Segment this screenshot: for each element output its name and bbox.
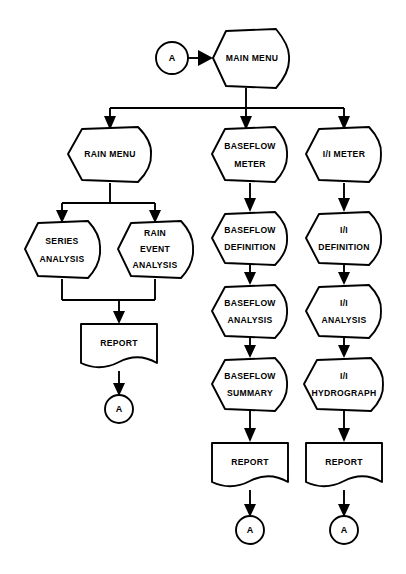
node-report-right[interactable]: REPORT	[306, 443, 382, 486]
baseflow-definition-label-line2: DEFINITION	[224, 242, 276, 252]
main-menu-label: MAIN MENU	[226, 53, 278, 63]
node-baseflow-definition[interactable]: BASEFLOW DEFINITION	[212, 212, 287, 265]
connector-a-mid-label: A	[247, 525, 254, 535]
node-ii-hydrograph[interactable]: I/I HYDROGRAPH	[304, 358, 383, 411]
node-connector-a-left[interactable]: A	[105, 395, 133, 423]
ii-hydrograph-label-line1: I/I	[340, 371, 348, 381]
node-baseflow-meter[interactable]: BASEFLOW METER	[212, 127, 287, 182]
series-analysis-label-line2: ANALYSIS	[39, 254, 84, 264]
node-connector-a-mid[interactable]: A	[236, 516, 264, 544]
node-main-menu[interactable]: MAIN MENU	[213, 29, 289, 88]
node-report-left[interactable]: REPORT	[81, 324, 157, 367]
baseflow-analysis-label-line2: ANALYSIS	[227, 315, 272, 325]
ii-analysis-label-line1: I/I	[340, 298, 348, 308]
baseflow-meter-label-line1: BASEFLOW	[224, 141, 276, 151]
node-connector-a-right[interactable]: A	[330, 516, 358, 544]
ii-analysis-label-line2: ANALYSIS	[321, 315, 366, 325]
edge-report-right-to-conn-a	[338, 490, 350, 517]
baseflow-summary-label-line2: SUMMARY	[227, 388, 273, 398]
baseflow-summary-label-line1: BASEFLOW	[224, 371, 276, 381]
node-ii-analysis[interactable]: I/I ANALYSIS	[306, 285, 381, 338]
rain-menu-label: RAIN MENU	[84, 149, 135, 159]
node-ii-meter[interactable]: I/I METER	[306, 127, 381, 182]
edge-report-left-to-conn-a	[113, 371, 125, 396]
edge-ii-analysis-to-hydrograph	[338, 338, 350, 358]
flowchart-canvas: A MAIN MENU RAIN MENU BASEFLOW METER I/I…	[0, 0, 406, 574]
connector-a-right-label: A	[341, 525, 348, 535]
rain-event-analysis-label-line1: RAIN	[144, 228, 166, 238]
rain-event-analysis-label-line3: ANALYSIS	[132, 260, 177, 270]
edge-rain-menu-bus	[56, 183, 161, 223]
edge-baseflow-summary-to-report	[244, 411, 256, 442]
ii-definition-label-line2: DEFINITION	[318, 242, 370, 252]
rain-event-analysis-label-line2: EVENT	[140, 244, 171, 254]
ii-hydrograph-label-line2: HYDROGRAPH	[311, 388, 376, 398]
baseflow-definition-label-line1: BASEFLOW	[224, 225, 276, 235]
edge-ii-definition-to-analysis	[338, 265, 350, 285]
connector-a-top-label: A	[169, 53, 176, 63]
ii-meter-label: I/I METER	[323, 149, 366, 159]
report-mid-label: REPORT	[231, 457, 269, 467]
edge-baseflow-meter-to-definition	[244, 183, 256, 212]
edge-main-menu-bus	[104, 88, 350, 130]
edge-baseflow-definition-to-analysis	[244, 265, 256, 285]
node-baseflow-summary[interactable]: BASEFLOW SUMMARY	[212, 358, 287, 411]
baseflow-analysis-label-line1: BASEFLOW	[224, 298, 276, 308]
edge-ii-hydrograph-to-report	[338, 411, 350, 442]
node-rain-event-analysis[interactable]: RAIN EVENT ANALYSIS	[118, 221, 193, 278]
report-left-label: REPORT	[100, 338, 138, 348]
flowchart-svg: A MAIN MENU RAIN MENU BASEFLOW METER I/I…	[0, 0, 406, 574]
baseflow-meter-label-line2: METER	[234, 159, 266, 169]
edge-ii-meter-to-definition	[338, 183, 350, 212]
node-connector-a-top[interactable]: A	[156, 42, 188, 74]
series-analysis-label-line1: SERIES	[45, 236, 78, 246]
node-series-analysis[interactable]: SERIES ANALYSIS	[25, 221, 100, 278]
node-baseflow-analysis[interactable]: BASEFLOW ANALYSIS	[212, 285, 287, 338]
node-rain-menu[interactable]: RAIN MENU	[68, 127, 151, 182]
edge-report-mid-to-conn-a	[244, 490, 256, 517]
ii-definition-label-line1: I/I	[340, 225, 348, 235]
node-ii-definition[interactable]: I/I DEFINITION	[306, 212, 381, 265]
edge-baseflow-analysis-to-summary	[244, 338, 256, 358]
node-report-mid[interactable]: REPORT	[212, 443, 288, 486]
edge-analysis-merge-report	[62, 279, 155, 324]
edge-conn-a-to-main-menu	[188, 50, 213, 66]
report-right-label: REPORT	[325, 457, 363, 467]
connector-a-left-label: A	[116, 404, 123, 414]
